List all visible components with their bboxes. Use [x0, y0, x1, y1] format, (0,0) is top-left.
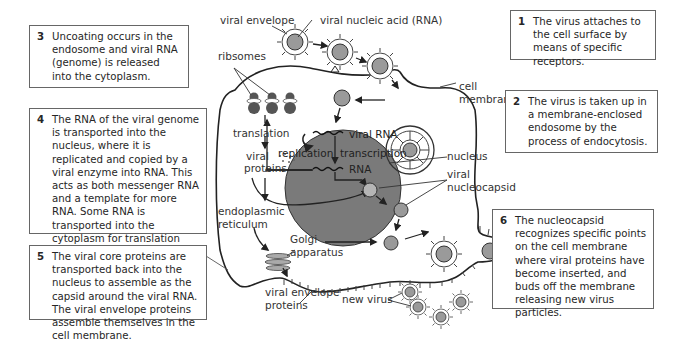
- step-text: The RNA of the viral genome is transport…: [52, 114, 199, 257]
- step-number: 1: [518, 15, 525, 28]
- step-number: 2: [513, 95, 520, 108]
- new-virus: [429, 305, 453, 329]
- step-text: The virus is taken up in a membrane-encl…: [528, 96, 647, 147]
- label-endoplasmic-reticulum: endoplasmic: [218, 205, 285, 217]
- step-text: The nucleocapsid recognizes specific poi…: [515, 215, 646, 318]
- step-number: 6: [500, 214, 507, 227]
- released-rna-core: [334, 90, 350, 106]
- step-box-1: 1 The virus attaches to the cell surface…: [510, 10, 656, 60]
- ribosome: [247, 93, 261, 115]
- label-golgi-2: apparatus: [290, 246, 343, 258]
- label-viral-nucleic-acid: viral nucleic acid (RNA): [320, 14, 442, 26]
- new-virus: [406, 295, 430, 319]
- label-golgi: Golgi: [290, 233, 317, 245]
- nucleocapsid: [394, 203, 408, 217]
- label-viral-envelope-proteins: viral envelope: [265, 286, 339, 298]
- label-nucleus: nucleus: [447, 150, 488, 162]
- label-viral-proteins-2: proteins: [244, 162, 287, 174]
- label-viral-envelope: viral envelope: [220, 14, 294, 26]
- label-viral-nucleocapsid-2: nucleocapsid: [447, 181, 516, 193]
- label-transcription: transcription: [340, 147, 407, 159]
- label-translation: translation: [233, 127, 289, 139]
- virus-attached: [322, 34, 358, 70]
- step-box-2: 2 The virus is taken up in a membrane-en…: [505, 90, 658, 153]
- step-box-3: 3 Uncoating occurs in the endosome and v…: [29, 25, 189, 88]
- step-number: 5: [37, 250, 44, 263]
- label-ribosomes: ribsomes: [218, 50, 266, 62]
- new-virus: [449, 290, 473, 314]
- ribosome: [265, 93, 279, 115]
- label-viral-proteins: viral: [246, 150, 269, 162]
- label-viral-nucleocapsid: viral: [447, 168, 470, 180]
- step-number: 3: [37, 30, 44, 43]
- label-endoplasmic-reticulum-2: reticulum: [218, 218, 268, 230]
- step-box-6: 6 The nucleocapsid recognizes specific p…: [492, 209, 654, 309]
- label-viral-envelope-proteins-2: proteins: [265, 299, 308, 311]
- step-text: The viral core proteins are transported …: [52, 251, 197, 341]
- step-text: Uncoating occurs in the endosome and vir…: [52, 31, 178, 82]
- step-number: 4: [37, 113, 44, 126]
- label-cell-membrane: cell: [459, 80, 477, 92]
- label-viral-rna: viral RNA: [349, 128, 398, 140]
- label-new-virus: new virus: [342, 293, 393, 305]
- nucleocapsid-moving: [384, 236, 398, 250]
- step-box-5: 5 The viral core proteins are transporte…: [29, 245, 207, 320]
- virus-entering: [362, 48, 398, 84]
- label-replication: replication: [278, 147, 333, 159]
- virus-approaching: [277, 24, 313, 60]
- step-text: The virus attaches to the cell surface b…: [533, 16, 641, 67]
- nucleocapsid-forming: [363, 183, 377, 197]
- ribosome: [283, 93, 297, 115]
- label-rna: RNA: [349, 163, 372, 175]
- new-virus: [426, 236, 462, 272]
- step-box-4: 4 The RNA of the viral genome is transpo…: [29, 108, 207, 234]
